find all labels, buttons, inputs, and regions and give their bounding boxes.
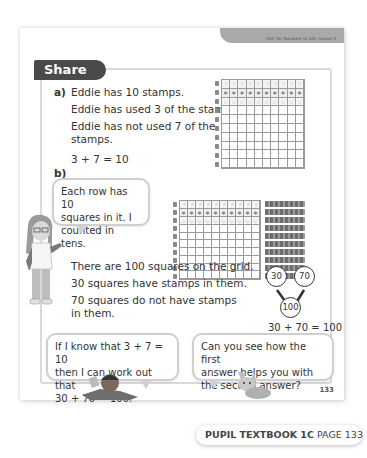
boy-character-icon xyxy=(80,373,140,401)
empty-square xyxy=(238,150,246,159)
stamp-square: ● xyxy=(238,89,246,98)
stamp-square: ○ xyxy=(236,217,244,225)
empty-square xyxy=(228,225,236,233)
stamp-square: ● xyxy=(271,89,279,98)
stamp-square: ⑂ xyxy=(244,201,252,209)
empty-square xyxy=(247,150,255,159)
empty-square xyxy=(244,233,252,241)
empty-square xyxy=(271,142,279,151)
part-b-line-3: 70 squares do not have stamps xyxy=(71,293,237,307)
empty-square xyxy=(296,106,304,115)
empty-square xyxy=(220,248,228,256)
part-circle-70: 70 xyxy=(294,266,315,287)
empty-square xyxy=(180,240,188,248)
empty-square xyxy=(230,150,238,159)
stamp-square: ● xyxy=(263,89,271,98)
stamp-square: ● xyxy=(230,89,238,98)
stamp-square: ● xyxy=(279,89,287,98)
empty-square xyxy=(252,233,260,241)
stamp-square: ⑂ xyxy=(271,80,279,89)
empty-square xyxy=(263,150,271,159)
empty-square xyxy=(263,133,271,142)
empty-square xyxy=(252,225,260,233)
empty-square xyxy=(238,142,246,151)
stamp-square: ● xyxy=(228,209,236,217)
stamp-square: ● xyxy=(222,89,230,98)
stamp-square: ○ xyxy=(271,98,279,107)
empty-square xyxy=(296,133,304,142)
stamp-square: ○ xyxy=(247,98,255,107)
empty-square xyxy=(279,150,287,159)
section-title: Share xyxy=(34,60,106,80)
empty-square xyxy=(180,225,188,233)
empty-square xyxy=(271,115,279,124)
empty-square xyxy=(196,225,204,233)
girl-speech-line-1: Each row has 10 xyxy=(61,185,141,211)
empty-square xyxy=(271,124,279,133)
stamp-square: ⑂ xyxy=(222,80,230,89)
empty-square xyxy=(238,124,246,133)
part-b-line-1: There are 100 squares on the grid. xyxy=(71,259,254,273)
stamp-square: ● xyxy=(212,209,220,217)
stamp-square: ⑂ xyxy=(255,80,263,89)
part-b-line-4: in them. xyxy=(71,306,115,320)
empty-square xyxy=(222,159,230,168)
empty-square xyxy=(228,233,236,241)
stamp-square: ○ xyxy=(230,98,238,107)
empty-square xyxy=(222,133,230,142)
empty-square xyxy=(271,159,279,168)
empty-square xyxy=(244,248,252,256)
empty-square xyxy=(230,142,238,151)
stamp-square: ● xyxy=(296,89,304,98)
unit-header-tab: Unit 16: Numbers to 100, Lesson 4 xyxy=(220,28,344,43)
empty-square xyxy=(288,159,296,168)
empty-square xyxy=(230,115,238,124)
empty-square xyxy=(263,142,271,151)
stamp-square: ⑂ xyxy=(180,201,188,209)
stamp-square: ⑂ xyxy=(188,201,196,209)
stamp-square: ● xyxy=(252,209,260,217)
empty-square xyxy=(279,106,287,115)
stamp-square: ⑂ xyxy=(220,201,228,209)
empty-square xyxy=(222,115,230,124)
stamp-square: ● xyxy=(288,89,296,98)
stamp-square: ⑂ xyxy=(252,201,260,209)
boy-speech-line-1: If I know that 3 + 7 = 10 xyxy=(55,340,170,366)
empty-square xyxy=(255,124,263,133)
stamp-square: ⑂ xyxy=(204,201,212,209)
empty-square xyxy=(180,248,188,256)
cat-speech-line-1: Can you see how the first xyxy=(201,340,325,366)
empty-square xyxy=(279,159,287,168)
empty-square xyxy=(247,133,255,142)
empty-square xyxy=(252,248,260,256)
part-a-line-4: stamps. xyxy=(71,132,113,146)
stamp-square: ○ xyxy=(288,98,296,107)
empty-square xyxy=(230,133,238,142)
stamp-square: ⑂ xyxy=(247,80,255,89)
empty-square xyxy=(230,159,238,168)
empty-square xyxy=(255,159,263,168)
stamp-square: ○ xyxy=(252,217,260,225)
empty-square xyxy=(236,248,244,256)
girl-speech-line-2: squares in it. I xyxy=(61,211,141,224)
empty-square xyxy=(236,225,244,233)
empty-square xyxy=(230,106,238,115)
empty-square xyxy=(255,150,263,159)
empty-square xyxy=(222,150,230,159)
empty-square xyxy=(204,240,212,248)
empty-square xyxy=(228,248,236,256)
book-title: PUPIL TEXTBOOK 1C xyxy=(205,429,314,440)
empty-square xyxy=(263,159,271,168)
empty-square xyxy=(212,248,220,256)
girl-speech-tail xyxy=(75,224,87,234)
empty-square xyxy=(288,106,296,115)
stamp-square: ● xyxy=(255,89,263,98)
stamp-square: ● xyxy=(188,209,196,217)
stamp-square: ○ xyxy=(212,217,220,225)
girl-speech-bubble: Each row has 10 squares in it. I counted… xyxy=(52,178,150,226)
stamp-square: ⑂ xyxy=(236,201,244,209)
empty-square xyxy=(220,225,228,233)
stamp-square: ● xyxy=(244,209,252,217)
part-circle-30: 30 xyxy=(266,266,287,287)
empty-square xyxy=(244,240,252,248)
